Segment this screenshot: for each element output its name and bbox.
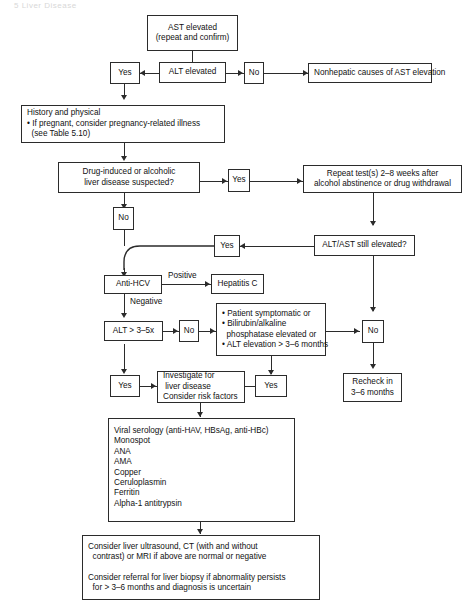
node-investigate-line3: Consider risk factors — [163, 392, 238, 402]
node-repeat-line1: Repeat test(s) 2–8 weeks after — [327, 169, 439, 179]
node-imaging-line2: contrast) or MRI if above are normal or … — [88, 552, 266, 562]
node-no-alt-elevated[interactable]: No — [244, 62, 264, 84]
node-serology-line8: Alpha-1 antitrypsin — [114, 499, 182, 509]
node-criteria[interactable]: • Patient symptomatic or • Bilirubin/alk… — [216, 303, 326, 356]
node-criteria-line4: • ALT elevation > 3–6 months — [222, 340, 328, 350]
node-yes-still-elevated[interactable]: Yes — [214, 235, 240, 257]
arrowhead-history-to-drug — [121, 156, 127, 161]
node-alt-ast-still-elevated[interactable]: ALT/AST still elevated? — [314, 235, 415, 256]
connector-hcv-to-hepc — [162, 284, 211, 285]
node-nonhepatic-causes[interactable]: Nonhepatic causes of AST elevation — [308, 63, 432, 83]
node-no-still-label: No — [368, 326, 378, 336]
page-running-header: 5 Liver Disease — [14, 1, 77, 10]
node-ast-elevated-line1: AST elevated — [168, 23, 217, 33]
node-drug-line2: liver disease suspected? — [84, 178, 174, 188]
arrowhead-yes-to-investigate — [151, 383, 156, 389]
node-drug-induced[interactable]: Drug-induced or alcoholic liver disease … — [58, 162, 200, 193]
node-criteria-line2: • Bilirubin/alkaline — [222, 319, 286, 329]
arrowhead-drug-to-yes — [222, 178, 227, 184]
node-alt-3-5x-label: ALT > 3–5x — [113, 326, 154, 336]
node-imaging-line5: for > 3–6 months and diagnosis is uncert… — [88, 583, 251, 593]
node-serology-line3: ANA — [114, 447, 131, 457]
node-serology-line5: Copper — [114, 468, 141, 478]
node-repeat-line2: alcohol abstinence or drug withdrawal — [314, 179, 451, 189]
arrowhead-hcv-to-alt35 — [121, 313, 127, 318]
node-investigate[interactable]: Investigate for liver disease Consider r… — [157, 371, 245, 403]
node-ast-elevated-line2: (repeat and confirm) — [156, 33, 230, 43]
node-imaging-line4: Consider referral for liver biopsy if ab… — [88, 573, 285, 583]
node-alt-3-5x[interactable]: ALT > 3–5x — [104, 321, 163, 341]
node-no-alt-label: No — [249, 68, 259, 78]
arrowhead-serology-to-imaging — [197, 529, 203, 534]
node-anti-hcv-label: Anti-HCV — [116, 279, 150, 289]
arrowhead-repeat-to-still — [370, 221, 376, 226]
arrowhead-yes-to-history — [121, 95, 127, 100]
node-criteria-line3: phosphatase elevated or — [222, 330, 316, 340]
node-no-drug-induced[interactable]: No — [113, 207, 134, 230]
edge-label-positive: Positive — [168, 271, 197, 280]
node-alt-elevated-line1: ALT elevated — [169, 67, 217, 77]
node-repeat-tests[interactable]: Repeat test(s) 2–8 weeks after alcohol a… — [303, 165, 462, 193]
node-yes-drug-label: Yes — [232, 175, 245, 185]
node-hepatitis-c[interactable]: Hepatitis C — [211, 274, 264, 294]
node-imaging-and-biopsy[interactable]: Consider liver ultrasound, CT (with and … — [82, 535, 320, 600]
node-viral-serology[interactable]: Viral serology (anti-HAV, HBsAg, anti-HB… — [108, 418, 295, 522]
arrowhead-alt35-to-yes — [121, 369, 127, 374]
node-yes-alt-3-5x[interactable]: Yes — [110, 375, 140, 397]
node-serology-line1: Viral serology (anti-HAV, HBsAg, anti-HB… — [114, 426, 269, 436]
arrowhead-still-to-no — [370, 307, 376, 312]
connector-still-to-no — [373, 256, 374, 311]
edge-label-negative: Negative — [130, 297, 162, 306]
node-investigate-line2: liver disease — [163, 382, 211, 392]
node-criteria-line1: • Patient symptomatic or — [222, 309, 310, 319]
node-drug-line1: Drug-induced or alcoholic — [83, 167, 176, 177]
node-alt-elevated[interactable]: ALT elevated — [159, 62, 226, 83]
connector-yes-to-repeat — [250, 181, 303, 182]
node-yes-alt-elevated[interactable]: Yes — [110, 62, 140, 84]
arrowhead-alt35-to-no — [173, 328, 178, 334]
node-hepatitis-c-label: Hepatitis C — [217, 279, 257, 289]
node-yes-criteria-label: Yes — [264, 381, 277, 391]
node-no-drug-label: No — [118, 213, 128, 223]
arrowhead-alt-to-no — [238, 70, 243, 76]
connector-alt35-to-yes — [124, 344, 125, 372]
node-still-line1: ALT/AST still elevated? — [322, 240, 406, 250]
node-yes-criteria[interactable]: Yes — [255, 375, 287, 397]
flowchart-page: 5 Liver Disease — [0, 0, 470, 607]
node-serology-line2: Monospot — [114, 436, 150, 446]
arrowhead-yes-to-repeat — [297, 178, 302, 184]
connector-yes-still-curve — [118, 240, 214, 270]
node-history-and-physical[interactable]: History and physical • If pregnant, cons… — [21, 105, 225, 143]
node-yes-alt-label: Yes — [118, 68, 131, 78]
node-anti-hcv[interactable]: Anti-HCV — [104, 275, 162, 294]
node-investigate-line1: Investigate for — [163, 371, 214, 381]
node-recheck[interactable]: Recheck in 3–6 months — [343, 373, 402, 402]
connector-no-to-nonhepatic — [264, 73, 308, 74]
node-imaging-line1: Consider liver ultrasound, CT (with and … — [88, 542, 258, 552]
node-history-line2: • If pregnant, consider pregnancy-relate… — [27, 119, 200, 129]
node-no-still-elevated[interactable]: No — [362, 320, 384, 343]
node-serology-line7: Ferritin — [114, 488, 139, 498]
arrowhead-hcv-to-hepc — [205, 281, 210, 287]
arrowhead-still-to-yes — [240, 243, 245, 249]
arrowhead-criteria-to-no — [354, 328, 359, 334]
node-serology-line6: Ceruloplasmin — [114, 478, 166, 488]
node-nonhepatic-line1: Nonhepatic causes of AST elevation — [314, 68, 445, 78]
node-history-line1: History and physical — [27, 108, 100, 118]
node-no-alt-3-5x[interactable]: No — [179, 320, 199, 342]
node-ast-elevated[interactable]: AST elevated (repeat and confirm) — [147, 15, 238, 51]
node-no-alt35-label: No — [184, 326, 194, 336]
arrowhead-no-to-criteria — [210, 328, 215, 334]
connector-still-to-yes — [240, 246, 314, 247]
node-history-line3: (see Table 5.10) — [27, 129, 90, 139]
node-yes-alt35-label: Yes — [118, 381, 131, 391]
node-yes-drug-induced[interactable]: Yes — [228, 169, 250, 192]
node-recheck-line2: 3–6 months — [351, 388, 394, 398]
node-serology-line4: AMA — [114, 457, 132, 467]
arrowhead-no-to-recheck — [370, 364, 376, 369]
arrowhead-alt-to-yes — [140, 70, 145, 76]
arrowhead-investigate-to-serology — [197, 412, 203, 417]
node-yes-still-label: Yes — [220, 241, 233, 251]
node-recheck-line1: Recheck in — [352, 377, 393, 387]
